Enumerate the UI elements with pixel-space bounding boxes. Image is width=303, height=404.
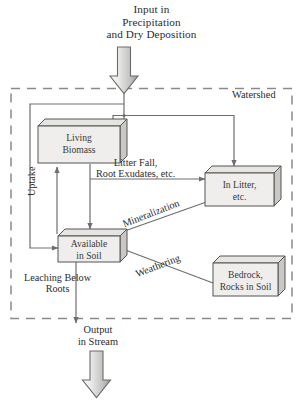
flow-label-litter-fall-line-1: Litter Fall, — [96, 157, 175, 168]
flow-label-leaching-line-1: Leaching Below — [24, 272, 91, 283]
flow-label-litter-fall: Litter Fall, Root Exudates, etc. — [96, 157, 175, 180]
output-line-1: Output — [56, 324, 140, 336]
box-available-in-soil-line-2: in Soil — [58, 250, 120, 262]
input-block-arrow — [110, 47, 138, 94]
watershed-label: Watershed — [232, 89, 276, 101]
flow-label-uptake: Uptake — [26, 167, 37, 196]
flow-label-leaching-line-2: Roots — [24, 283, 91, 294]
box-bedrock-label: Bedrock, Rocks in Soil — [211, 269, 280, 292]
box-available-in-soil-label: Available in Soil — [58, 238, 120, 261]
box-living-biomass-line-1: Living — [38, 132, 120, 144]
box-in-litter-line-1: In Litter, — [205, 179, 274, 191]
output-label: Output in Stream — [56, 324, 140, 347]
box-living-biomass-line-2: Biomass — [38, 144, 120, 156]
box-in-litter-line-2: etc. — [205, 191, 274, 203]
output-block-arrow — [83, 351, 111, 398]
page-title: Input in Precipitation and Dry Depositio… — [0, 3, 303, 41]
box-available-in-soil-line-1: Available — [58, 238, 120, 250]
output-line-2: in Stream — [56, 336, 140, 348]
flow-label-leaching: Leaching Below Roots — [24, 272, 91, 295]
title-line-2: Precipitation — [0, 16, 303, 29]
flow-label-litter-fall-line-2: Root Exudates, etc. — [96, 168, 175, 179]
title-line-3: and Dry Deposition — [0, 28, 303, 41]
diagram-canvas: Input in Precipitation and Dry Depositio… — [0, 0, 303, 404]
box-living-biomass-label: Living Biomass — [38, 132, 120, 155]
title-line-1: Input in — [0, 3, 303, 16]
box-in-litter-label: In Litter, etc. — [205, 179, 274, 202]
box-bedrock-line-2: Rocks in Soil — [211, 281, 280, 293]
box-bedrock-line-1: Bedrock, — [211, 269, 280, 281]
